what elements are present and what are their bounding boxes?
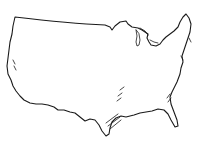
- west-coast-hatch-marks: [13, 60, 16, 70]
- us-outline-map: [0, 0, 197, 143]
- gulf-hatch-marks: [106, 114, 121, 129]
- lake-michigan-outline: [136, 30, 140, 46]
- interior-hatch-marks: [117, 87, 124, 101]
- us-outline-drawing: [0, 0, 197, 143]
- us-border-outline: [7, 14, 191, 136]
